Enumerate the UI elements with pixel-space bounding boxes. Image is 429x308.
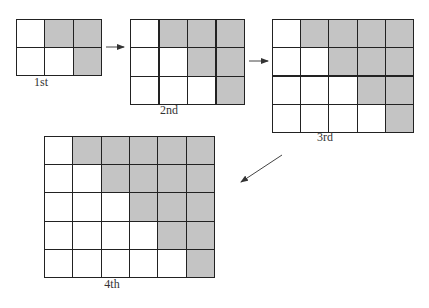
- arrow-icon: [241, 155, 282, 182]
- arrows-layer: [0, 0, 429, 308]
